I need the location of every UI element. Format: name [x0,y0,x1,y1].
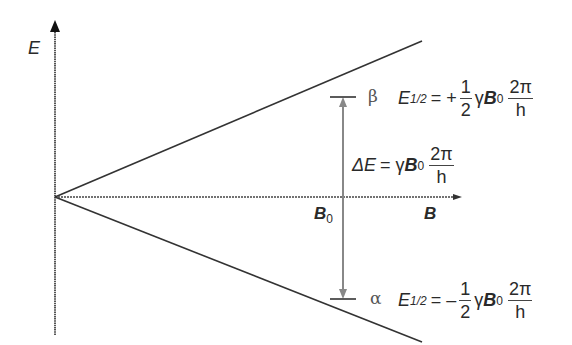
delta-b: B [405,155,418,176]
alpha-b-sub: 0 [496,294,503,308]
energy-axis [50,20,60,335]
delta-e-eq: = γ [380,155,405,176]
b0-symbol: B [314,204,326,223]
field-axis-label: B [424,204,436,224]
field-axis-arrowhead-icon [453,194,462,200]
alpha-e-symbol: E [398,290,410,311]
alpha-energy-equation: E1/2 = – 1 2 γB0 2π h [398,280,535,321]
alpha-symbol: α [370,288,381,308]
beta-symbol: β [368,86,378,106]
alpha-half-fraction: 1 2 [459,280,471,321]
alpha-2pi-over-h: 2π h [508,280,532,321]
alpha-level-line [55,197,422,342]
b0-marker-label: B0 [314,204,333,226]
beta-half-fraction: 1 2 [460,78,472,119]
energy-axis-label: E [28,38,40,59]
alpha-gamma: γ [474,290,483,311]
alpha-sign: = – [431,290,457,311]
alpha-b: B [483,290,496,311]
delta-e-equation: ΔE = γB0 2π h [352,145,457,186]
beta-e-subscript: 1/2 [410,92,427,106]
beta-b: B [484,88,497,109]
beta-gamma: γ [475,88,484,109]
beta-energy-equation: E1/2 = + 1 2 γB0 2π h [398,78,536,119]
beta-e-symbol: E [398,88,410,109]
delta-b-sub: 0 [418,159,425,173]
beta-b-sub: 0 [497,92,504,106]
alpha-e-subscript: 1/2 [410,294,427,308]
energy-axis-arrowhead-icon [50,20,60,32]
delta-e-symbol: ΔE [352,155,376,176]
b0-subscript: 0 [326,212,333,226]
delta-2pi-over-h: 2π h [429,145,453,186]
field-axis [55,194,462,200]
delta-e-arrow [330,97,356,299]
beta-2pi-over-h: 2π h [508,78,532,119]
beta-sign: = + [431,88,457,109]
